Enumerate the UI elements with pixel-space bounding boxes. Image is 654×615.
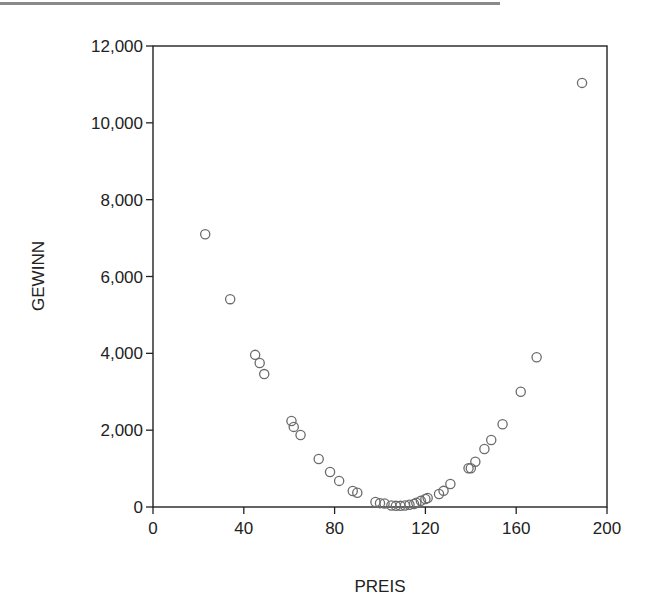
y-tick-label: 6,000 <box>100 268 143 287</box>
y-tick-label: 10,000 <box>91 114 143 133</box>
scatter-chart: 02,0004,0006,0008,00010,00012,000 040801… <box>0 0 654 615</box>
y-tick-label: 8,000 <box>100 191 143 210</box>
x-axis: 04080120160200 <box>148 507 621 538</box>
data-point-marker <box>487 435 496 444</box>
data-point-marker <box>498 420 507 429</box>
y-axis: 02,0004,0006,0008,00010,00012,000 <box>91 37 153 517</box>
data-point-marker <box>260 369 269 378</box>
y-tick-label: 2,000 <box>100 421 143 440</box>
data-point-marker <box>296 430 305 439</box>
data-point-marker <box>446 479 455 488</box>
plot-border <box>153 46 607 507</box>
x-axis-title: PREIS <box>354 577 405 596</box>
data-point-marker <box>532 353 541 362</box>
data-point-marker <box>226 295 235 304</box>
data-point-marker <box>466 464 475 473</box>
data-point-marker <box>325 467 334 476</box>
data-point-marker <box>480 444 489 453</box>
data-point-marker <box>577 78 586 87</box>
y-axis-title: GEWINN <box>29 241 48 311</box>
x-tick-label: 200 <box>593 519 621 538</box>
data-point-marker <box>289 422 298 431</box>
x-tick-label: 120 <box>411 519 439 538</box>
data-point-marker <box>335 476 344 485</box>
y-tick-label: 12,000 <box>91 37 143 56</box>
data-point-marker <box>287 416 296 425</box>
data-points <box>201 78 587 510</box>
data-point-marker <box>255 358 264 367</box>
y-tick-label: 4,000 <box>100 344 143 363</box>
data-point-marker <box>201 230 210 239</box>
y-tick-label: 0 <box>134 498 143 517</box>
data-point-marker <box>516 387 525 396</box>
data-point-marker <box>471 457 480 466</box>
x-tick-label: 40 <box>234 519 253 538</box>
plot-frame <box>153 46 607 507</box>
x-tick-label: 160 <box>502 519 530 538</box>
data-point-marker <box>314 454 323 463</box>
x-tick-label: 80 <box>325 519 344 538</box>
x-tick-label: 0 <box>148 519 157 538</box>
